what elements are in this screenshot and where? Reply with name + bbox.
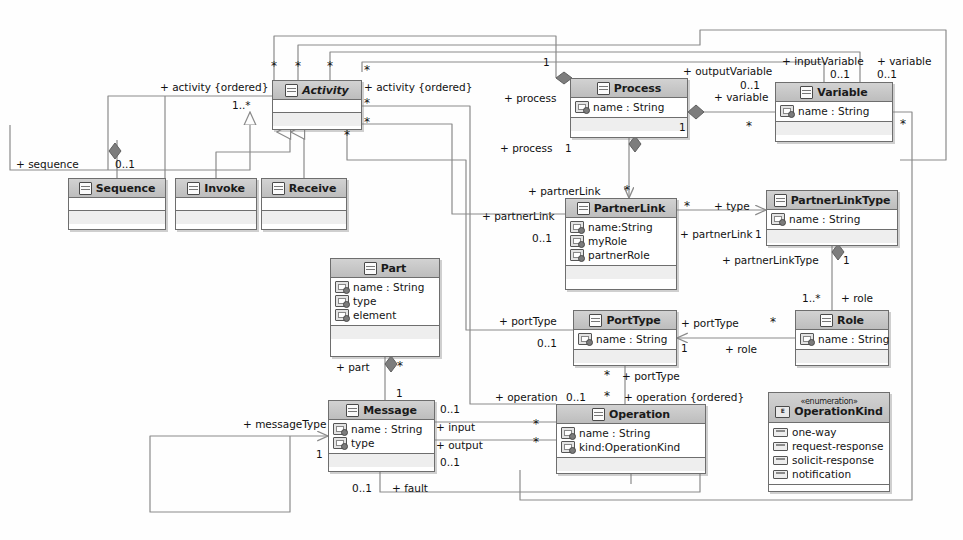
operation-compartment: [176, 211, 256, 224]
class-attribute[interactable]: type: [333, 436, 431, 450]
attribute-compartment: name : String: [796, 330, 888, 350]
class-box-process[interactable]: Processname : String: [570, 78, 688, 138]
edge-label-l-input: + input: [436, 422, 475, 433]
enum-literal[interactable]: notification: [773, 467, 886, 481]
class-attribute[interactable]: kind:OperationKind: [561, 440, 702, 454]
attribute-compartment: name : Stringtypeelement: [331, 278, 439, 326]
edge-label-l-sequence: + sequence: [16, 159, 79, 170]
attribute-compartment: [176, 198, 256, 211]
class-name: Part: [381, 262, 406, 275]
class-attribute[interactable]: name : String: [578, 332, 673, 346]
uml-class-diagram: ActivitySequenceInvokeReceiveProcessname…: [0, 0, 963, 540]
class-icon: [346, 404, 359, 417]
class-name: OperationKind: [794, 406, 883, 418]
class-header-porttype: PortType: [574, 311, 676, 330]
class-attribute[interactable]: name : String: [800, 332, 885, 346]
class-box-partnerlink[interactable]: PartnerLinkname:StringmyRolepartnerRole: [565, 198, 677, 290]
edge-label-l-star-a1: *: [271, 62, 277, 70]
class-attribute[interactable]: name : String: [575, 100, 684, 114]
edge-messagetype: [150, 436, 330, 512]
class-box-message[interactable]: Messagename : Stringtype: [328, 400, 435, 472]
class-icon: [364, 262, 377, 275]
attribute-icon: [780, 105, 794, 117]
attribute-icon: [333, 437, 347, 449]
edge-label-l-process-variable-mult: 1: [679, 122, 686, 133]
operation-compartment: [273, 113, 361, 126]
class-attribute[interactable]: name : String: [561, 426, 702, 440]
edge-label-l-operation-ordered: + operation {ordered}: [624, 392, 744, 403]
class-box-activity[interactable]: Activity: [272, 80, 362, 130]
class-attribute[interactable]: name : String: [335, 280, 436, 294]
class-name: Process: [614, 82, 661, 95]
class-box-sequence[interactable]: Sequence: [68, 178, 166, 230]
attribute-icon: [575, 101, 589, 113]
class-name: PortType: [606, 314, 660, 327]
class-attribute[interactable]: type: [335, 294, 436, 308]
class-attribute[interactable]: partnerRole: [570, 248, 673, 262]
class-attribute[interactable]: name : String: [780, 104, 889, 118]
enum-literal[interactable]: solicit-response: [773, 453, 886, 467]
operation-compartment: [262, 211, 346, 224]
enum-literal[interactable]: one-way: [773, 425, 886, 439]
enum-literal[interactable]: request-response: [773, 439, 886, 453]
class-header-role: Role: [796, 311, 888, 330]
edge-label-l-star-a2: *: [295, 62, 301, 70]
edge-label-l-variable-star-right: *: [900, 120, 906, 128]
diamond-process-partnerlink: [629, 136, 641, 152]
edge-label-l-output-star: *: [533, 438, 539, 446]
attribute-label: name:String: [588, 220, 653, 234]
operation-compartment: [776, 122, 892, 135]
enumeration-icon: E: [775, 406, 790, 418]
class-header-message: Message: [329, 401, 434, 420]
literal-label: notification: [792, 467, 851, 481]
edge-label-l-star-a4: *: [364, 66, 370, 74]
attribute-icon: [335, 309, 349, 321]
edge-label-l-activity-ordered-right: + activity {ordered}: [364, 82, 472, 93]
edge-label-l-input-mult: 0..1: [440, 404, 460, 415]
class-icon: [800, 86, 813, 99]
attribute-compartment: name : Stringtype: [329, 420, 434, 454]
edge-label-l-activity-ordered-left: + activity {ordered}: [160, 82, 268, 93]
edge-label-l-partnerlinktype-mult: 1: [843, 255, 850, 266]
attribute-label: name : String: [351, 422, 422, 436]
class-attribute[interactable]: myRole: [570, 234, 673, 248]
edge-label-l-process-left: + process: [504, 93, 557, 104]
attribute-label: name : String: [579, 426, 650, 440]
class-attribute[interactable]: name : String: [333, 422, 431, 436]
edge-label-l-messagetype-mult: 1: [316, 449, 323, 460]
edge-label-l-output: + output: [436, 440, 483, 451]
attribute-label: kind:OperationKind: [579, 440, 680, 454]
edge-label-l-star-a5: *: [364, 99, 370, 107]
edge-label-l-variable-right: + variable: [714, 92, 769, 103]
edge-label-l-part-star: *: [397, 362, 403, 370]
class-icon: [589, 314, 602, 327]
class-icon: [820, 314, 833, 327]
class-box-porttype[interactable]: PortTypename : String: [573, 310, 677, 366]
class-box-invoke[interactable]: Invoke: [175, 178, 257, 230]
edge-activity-process-top: [274, 36, 556, 80]
class-attribute[interactable]: name:String: [570, 220, 673, 234]
class-box-role[interactable]: Rolename : String: [795, 310, 889, 366]
class-header-variable: Variable: [776, 83, 892, 102]
class-box-variable[interactable]: Variablename : String: [775, 82, 893, 142]
class-attribute[interactable]: element: [335, 308, 436, 322]
attribute-icon: [335, 281, 349, 293]
attribute-label: element: [353, 308, 396, 322]
class-header-invoke: Invoke: [176, 179, 256, 198]
class-attribute[interactable]: name : String: [771, 212, 894, 226]
class-box-partnerlinktype[interactable]: PartnerLinkTypename : String: [766, 190, 898, 246]
attribute-label: partnerRole: [588, 248, 650, 262]
class-name: Operation: [609, 408, 670, 421]
edge-label-l-part-mult: 1: [396, 388, 403, 399]
class-box-part[interactable]: Partname : Stringtypeelement: [330, 258, 440, 357]
attribute-icon: [335, 295, 349, 307]
edge-label-l-partnerlink-left: + partnerLink: [482, 211, 555, 222]
edge-label-l-partnerlink-star: *: [684, 202, 690, 210]
class-box-receive[interactable]: Receive: [261, 178, 347, 230]
class-box-operation[interactable]: Operationname : Stringkind:OperationKind: [556, 404, 706, 474]
operation-compartment: [796, 350, 888, 363]
operation-compartment: [69, 211, 165, 224]
class-box-operationkind[interactable]: «enumeration»EOperationKindone-wayreques…: [768, 392, 890, 492]
edge-label-l-messagetype: + messageType: [243, 419, 326, 430]
literal-icon: [773, 442, 788, 451]
